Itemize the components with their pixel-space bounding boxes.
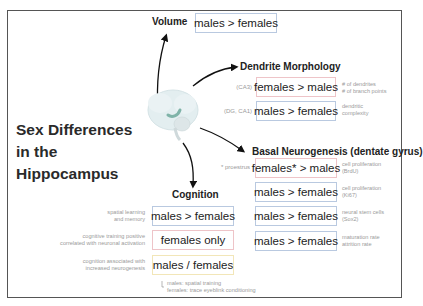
arrow-to-neurogenesis — [200, 128, 243, 151]
measure-line: dendritic — [342, 103, 368, 110]
cognition-result-spatial: males > females — [152, 206, 234, 226]
measure-line: (Ki67) — [342, 192, 381, 199]
volume-heading: Volume — [152, 16, 187, 27]
neurogenesis-result-brdu: females* > males — [255, 158, 337, 178]
basal-neurogenesis-heading: Basal Neurogenesis (dentate gyrus) — [252, 146, 423, 157]
arrow-to-cognition — [183, 143, 193, 186]
footnote-line: females: trace eyeblink conditioning — [167, 287, 256, 294]
cognition-label-training: cognitive training positive correlated w… — [30, 233, 145, 247]
measure-line: # of branch points — [342, 88, 386, 95]
neurogenesis-measure-sox2: neural stem cells (Sox2) — [342, 209, 384, 223]
dendrite-result-ca3: females > males — [256, 77, 336, 97]
dendrite-result-dg-ca1: males > females — [256, 101, 336, 121]
measure-line: (Sox2) — [342, 216, 384, 223]
cognition-heading: Cognition — [172, 189, 219, 200]
neurogenesis-measure-ki67: cell proliferation (Ki67) — [342, 185, 381, 199]
measure-line: neural stem cells — [342, 209, 384, 216]
measure-line: maturation rate — [342, 234, 380, 241]
brain-hippocampus-icon — [148, 90, 198, 140]
footnote-line: males: spatial training — [167, 280, 256, 287]
volume-result-box: males > females — [195, 13, 277, 33]
label-line: and memory — [40, 216, 145, 223]
measure-line: complexity — [342, 110, 368, 117]
measure-line: # of dendrites — [342, 81, 386, 88]
label-line: correlated with neuronal activation — [30, 240, 145, 247]
neurogenesis-result-maturation: males > females — [255, 231, 337, 251]
neurogenesis-result-sox2: males > females — [255, 206, 337, 226]
measure-line: attrition rate — [342, 241, 380, 248]
measure-line: cell proliferation — [342, 161, 381, 168]
measure-line: (BrdU) — [342, 168, 381, 175]
diagram-title: Sex Differences in the Hippocampus — [16, 119, 146, 185]
neurogenesis-result-ki67: males > females — [255, 182, 337, 202]
cognition-label-neurogenesis: cognition associated with increased neur… — [30, 258, 145, 272]
cognition-result-neurogenesis: males / females — [152, 255, 234, 275]
proestrus-note: * proestrus — [210, 164, 250, 170]
label-line: spatial learning — [40, 209, 145, 216]
cognition-result-training: females only — [152, 230, 234, 250]
neurogenesis-measure-brdu: cell proliferation (BrdU) — [342, 161, 381, 175]
region-label-ca3: (CA3) — [222, 84, 252, 90]
footnote-bracket — [162, 281, 164, 287]
region-label-dg-ca1: (DG, CA1) — [212, 108, 252, 114]
dendrite-measure-dg-ca1: dendritic complexity — [342, 103, 368, 117]
dendrite-morphology-heading: Dendrite Morphology — [240, 61, 341, 72]
measure-line: cell proliferation — [342, 185, 381, 192]
cognition-label-spatial: spatial learning and memory — [40, 209, 145, 223]
label-line: cognition associated with — [30, 258, 145, 265]
neurogenesis-measure-maturation: maturation rate attrition rate — [342, 234, 380, 248]
cognition-footnote: males: spatial training females: trace e… — [167, 280, 256, 294]
label-line: increased neurogenesis — [30, 265, 145, 272]
dendrite-measure-ca3: # of dendrites # of branch points — [342, 81, 386, 95]
label-line: cognitive training positive — [30, 233, 145, 240]
